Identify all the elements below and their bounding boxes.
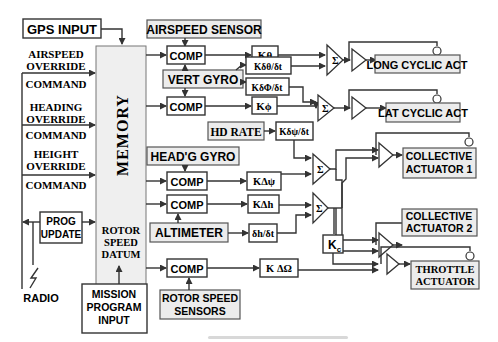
- comp-2-label: COMP: [170, 101, 203, 113]
- input-label: INPUT: [98, 314, 130, 326]
- kdphi-to-sum2: [289, 87, 316, 102]
- headg-gyro-label: HEAD'G GYRO: [151, 150, 236, 164]
- gain-k-delta-omega-label: K ΔΩ: [266, 263, 292, 274]
- vert-gyro-to-kdtheta-arrow: [236, 65, 246, 70]
- gps-input-block: GPS INPUT: [23, 19, 101, 38]
- rotor-speed-datum-label: ROTOR: [102, 225, 141, 236]
- feedback-pot-throttle-icon: [466, 252, 474, 260]
- kc-to-throttle: [333, 253, 378, 264]
- kphi-to-sum2: [277, 106, 316, 108]
- flight-control-block-diagram: GPS INPUT AIRSPEED OVERRIDE COMMAND HEAD…: [0, 0, 498, 342]
- height-override-label: HEIGHT: [34, 148, 79, 160]
- feedback-pot-col1-icon: [465, 138, 473, 146]
- sum4-to-col1: [342, 158, 378, 208]
- comp-3-label: COMP: [171, 176, 204, 188]
- collective-1-label: COLLECTIVE: [406, 150, 473, 162]
- prog-update-label: PROG: [46, 216, 76, 227]
- mission-program-input-block: MISSION PROGRAM INPUT: [82, 284, 147, 333]
- program-label: PROGRAM: [87, 301, 142, 313]
- airspeed-override-label-2: OVERRIDE: [26, 60, 85, 72]
- gain-k-dphi-dt-label: KδΦ/δt: [252, 83, 284, 93]
- gain-k-delta-h-label: KΔh: [253, 199, 274, 210]
- altimeter-label: ALTIMETER: [155, 226, 223, 240]
- amplifier-throttle: [387, 254, 399, 274]
- throttle-label-2: ACTUATOR: [415, 276, 475, 287]
- lat-cyclic-act-label: LAT CYCLIC ACT: [378, 107, 468, 119]
- prog-update-label-2: UPDATE: [41, 229, 82, 240]
- vert-gyro-label: VERT GYRO: [168, 73, 239, 87]
- comp-5-label: COMP: [171, 263, 204, 275]
- feedback-pot-lat-icon: [433, 95, 441, 103]
- command-label-1: COMMAND: [25, 78, 86, 90]
- comp-4-label: COMP: [171, 199, 204, 211]
- memory-label: MEMORY: [114, 94, 131, 176]
- command-label-2: COMMAND: [25, 129, 86, 141]
- radio-lightning-icon: [30, 268, 38, 288]
- gps-input-label: GPS INPUT: [27, 22, 97, 37]
- radio-label: RADIO: [23, 292, 59, 304]
- amplifier-long: [352, 49, 366, 71]
- sum3-to-col1: [330, 150, 378, 169]
- rotor-speed-datum-label-3: DATUM: [102, 249, 141, 260]
- prog-update-block: PROG UPDATE: [40, 212, 82, 243]
- sigma-lat: Σ: [322, 103, 329, 114]
- comp-1-label: COMP: [170, 50, 203, 62]
- gain-dh-dt-label: δh/δt: [252, 228, 275, 239]
- gain-k-phi-label: Kϕ: [256, 100, 272, 112]
- airspeed-override-label: AIRSPEED: [28, 48, 84, 60]
- collective-1-label-2: ACTUATOR 1: [406, 163, 473, 175]
- collective-2-label-2: ACTUATOR 2: [406, 222, 473, 234]
- collective-2-label: COLLECTIVE: [406, 210, 473, 222]
- gps-to-memory-arrow: [101, 29, 122, 44]
- mission-label: MISSION: [92, 288, 136, 300]
- gain-k-dtheta-dt-label: Kδθ/δt: [254, 62, 283, 72]
- height-override-label-2: OVERRIDE: [26, 160, 85, 172]
- command-label-3: COMMAND: [25, 179, 86, 191]
- amplifier-lat: [352, 97, 366, 119]
- long-cyclic-act-label: LONG CYCLIC ACT: [366, 59, 467, 71]
- sigma-height: Σ: [316, 203, 323, 214]
- sigma-heading: Σ: [317, 164, 324, 175]
- heading-override-label: HEADING: [30, 101, 83, 113]
- rotor-speed-datum-label-2: SPEED: [104, 237, 138, 248]
- hd-rate-label: HD RATE: [210, 126, 262, 138]
- figure-caption-faded: [208, 336, 348, 339]
- gain-k-dpsi-dt-label: Kδψ/δt: [279, 127, 309, 137]
- memory-block: MEMORY ROTOR SPEED DATUM: [96, 46, 146, 290]
- feedback-pot-long-icon: [433, 47, 441, 55]
- rotor-speed-sensors-label: ROTOR SPEED: [162, 292, 239, 304]
- amplifier-collective-1: [379, 143, 393, 167]
- airspeed-sensor-label: AIRSPEED SENSOR: [146, 23, 262, 37]
- sigma-long: Σ: [332, 55, 339, 66]
- dhdt-to-sum4: [277, 215, 311, 233]
- heading-override-label-2: OVERRIDE: [26, 113, 85, 125]
- gain-k-delta-psi-label: KΔψ: [253, 176, 276, 187]
- throttle-label: THROTTLE: [416, 264, 475, 275]
- rotor-speed-sensors-label-2: SENSORS: [174, 305, 225, 317]
- kdpsi-to-sum3: [294, 140, 311, 158]
